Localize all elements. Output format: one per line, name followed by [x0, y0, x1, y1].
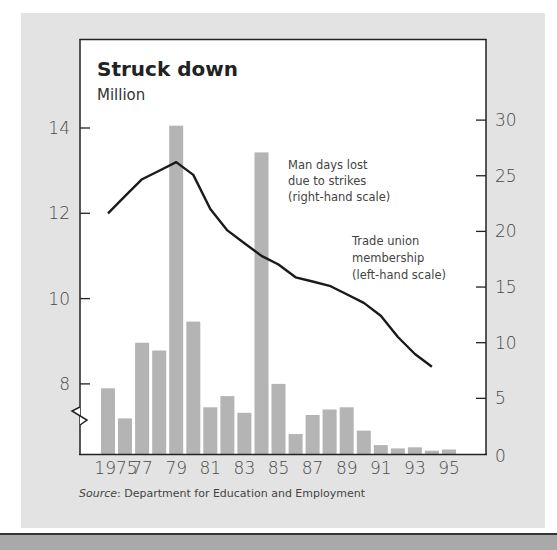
bar-1983: [237, 413, 251, 454]
svg-text:Trade union: Trade union: [351, 234, 419, 248]
x-tick-label: 85: [268, 458, 290, 478]
bar-1981: [203, 407, 217, 454]
left-tick-label: 8: [59, 374, 70, 394]
x-tick-label: 83: [234, 458, 256, 478]
x-tick-label: 95: [438, 458, 460, 478]
bar-1994: [425, 451, 439, 454]
x-tick-label: 93: [404, 458, 426, 478]
right-tick-label: 5: [495, 388, 506, 408]
bar-1988: [323, 410, 337, 455]
bar-1993: [408, 447, 422, 454]
left-tick-label: 10: [48, 289, 70, 309]
x-axis-tick-labels: 197577798183858789919395: [94, 458, 459, 478]
right-tick-label: 25: [495, 166, 517, 186]
bar-1975: [101, 388, 115, 454]
x-tick-label: 87: [302, 458, 324, 478]
x-tick-label: 89: [336, 458, 358, 478]
right-tick-label: 20: [495, 221, 517, 241]
bar-1985: [272, 384, 286, 454]
left-tick-label: 14: [48, 118, 70, 138]
bar-1991: [374, 445, 388, 454]
bar-1978: [152, 351, 166, 455]
svg-text:Man days lost: Man days lost: [288, 158, 368, 172]
svg-text:due to strikes: due to strikes: [288, 174, 366, 188]
right-tick-label: 30: [495, 110, 517, 130]
x-tick-label: 91: [370, 458, 392, 478]
x-tick-label: 81: [199, 458, 221, 478]
right-tick-label: 10: [495, 333, 517, 353]
bar-1995: [442, 450, 456, 455]
chart: 8101214 051015202530 1975777981838587899…: [0, 0, 557, 550]
bar-1979: [169, 126, 183, 454]
bar-1984: [255, 152, 269, 454]
x-tick-label: 79: [165, 458, 187, 478]
left-tick-label: 12: [48, 203, 70, 223]
bar-1977: [135, 343, 149, 454]
bar-1992: [391, 448, 405, 454]
x-tick-label: 77: [131, 458, 153, 478]
bar-1982: [220, 396, 234, 454]
right-tick-label: 0: [495, 446, 506, 466]
bar-1976: [118, 418, 132, 454]
chart-title: Struck down: [97, 57, 238, 81]
svg-text:(right-hand scale): (right-hand scale): [288, 190, 390, 204]
bar-1987: [306, 415, 320, 454]
svg-text:(left-hand scale): (left-hand scale): [352, 268, 446, 282]
bar-1990: [357, 431, 371, 454]
right-tick-label: 15: [495, 277, 517, 297]
bar-1989: [340, 407, 354, 454]
source-note: Source: Department for Education and Emp…: [79, 487, 366, 500]
bar-1986: [289, 434, 303, 454]
svg-text:membership: membership: [352, 251, 424, 265]
chart-subtitle: Million: [97, 86, 145, 104]
bar-1980: [186, 322, 200, 454]
